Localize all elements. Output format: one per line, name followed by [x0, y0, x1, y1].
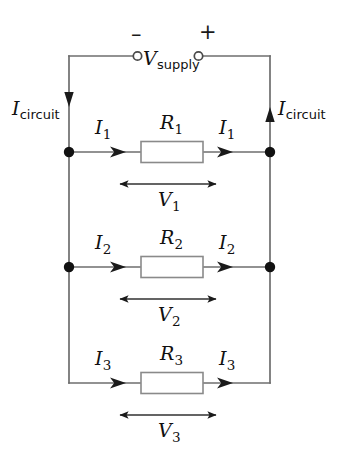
- branch-3-current-in-main: I: [95, 347, 102, 369]
- branch-2-resistor-label: R2: [160, 228, 182, 247]
- branch-2-current-out-subscript: 2: [227, 241, 235, 257]
- right-rail-current-main: I: [278, 97, 285, 119]
- branch-3-resistor-label: R3: [160, 344, 182, 363]
- left-rail-current-subscript: circuit: [20, 107, 60, 122]
- resistor-box-2: [141, 257, 203, 278]
- branch-3-resistor-subscript: 3: [175, 352, 183, 368]
- right-rail-current-subscript: circuit: [286, 107, 326, 122]
- resistor-box-3: [141, 373, 203, 394]
- branch-2-voltage-main: V: [158, 303, 171, 325]
- branch-3-current-in-label: I3: [95, 349, 111, 368]
- junction-dot-branch-2-right: [265, 262, 275, 272]
- branch-3-current-out-main: I: [219, 347, 226, 369]
- branch-2-current-in-main: I: [95, 231, 102, 253]
- branch-1-voltage-main: V: [158, 188, 171, 210]
- left-rail-current-arrow-icon: [64, 92, 73, 107]
- junction-dot-branch-1-right: [265, 147, 275, 157]
- supply-label-subscript: supply: [157, 57, 200, 72]
- branch-2-resistor-main: R: [160, 226, 174, 248]
- branch-3-voltage-label: V3: [158, 421, 180, 440]
- branch-1-voltage-subscript: 1: [172, 198, 180, 214]
- branch-2-current-in-label: I2: [95, 233, 111, 252]
- right-rail-current-arrow-icon: [265, 107, 274, 122]
- supply-positive-sign: +: [199, 22, 217, 43]
- branch-2-voltage-subscript: 2: [172, 313, 180, 329]
- supply-label: Vsupply: [143, 49, 199, 68]
- branch-1-resistor-subscript: 1: [175, 121, 183, 137]
- junction-dot-branch-2-left: [64, 262, 74, 272]
- supply-label-main: V: [143, 47, 156, 69]
- branch-1-resistor-label: R1: [160, 113, 182, 132]
- branch-2-current-out-main: I: [219, 231, 226, 253]
- branch-3-current-out-subscript: 3: [227, 357, 235, 373]
- right-rail-current-label: Icircuit: [278, 99, 325, 118]
- branch-3-voltage-subscript: 3: [172, 429, 180, 445]
- branch-1-voltage-label: V1: [158, 190, 180, 209]
- branch-2-resistor-subscript: 2: [175, 236, 183, 252]
- branch-3-current-in-subscript: 3: [103, 357, 111, 373]
- circuit-diagram: – + Vsupply Icircuit Icircuit I1 R1 I1 V…: [0, 0, 344, 458]
- branch-1-current-out-main: I: [219, 116, 226, 138]
- branch-1-current-out-subscript: 1: [227, 126, 235, 142]
- branch-1-current-in-main: I: [95, 116, 102, 138]
- negative-terminal-icon: [133, 52, 141, 60]
- left-rail-current-main: I: [12, 97, 19, 119]
- junction-dot-branch-1-left: [64, 147, 74, 157]
- supply-negative-sign: –: [131, 24, 142, 45]
- branch-1-current-in-label: I1: [95, 118, 111, 137]
- branch-1-current-in-subscript: 1: [103, 126, 111, 142]
- branch-1-resistor-main: R: [160, 111, 174, 133]
- branch-2-voltage-label: V2: [158, 305, 180, 324]
- branch-2-current-in-subscript: 2: [103, 241, 111, 257]
- branch-2-current-out-label: I2: [219, 233, 235, 252]
- left-rail-current-label: Icircuit: [12, 99, 59, 118]
- branch-1-current-out-label: I1: [219, 118, 235, 137]
- resistor-box-1: [141, 142, 203, 163]
- branch-3-current-out-label: I3: [219, 349, 235, 368]
- branch-3-resistor-main: R: [160, 342, 174, 364]
- branch-3-voltage-main: V: [158, 419, 171, 441]
